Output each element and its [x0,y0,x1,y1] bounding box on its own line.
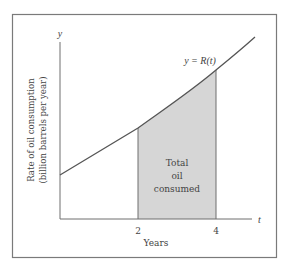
shade-label-line-3: consumed [154,184,201,194]
y-axis-label-line-2: (billion barrels per year) [38,76,48,183]
curve-label: y = R(t) [183,55,216,67]
shade-label-line-2: oil [171,171,182,181]
x-tick-4: 4 [213,226,219,236]
y-axis-var: y [57,28,63,39]
x-tick-2: 2 [135,226,141,236]
x-axis-var: t [258,214,261,225]
chart: y t y = R(t) 2 4 Years Rate of oil consu… [0,0,286,272]
shade-label-line-1: Total [166,158,189,168]
y-axis-label-line-1: Rate of oil consumption [26,78,36,182]
x-axis-label: Years [143,238,169,248]
